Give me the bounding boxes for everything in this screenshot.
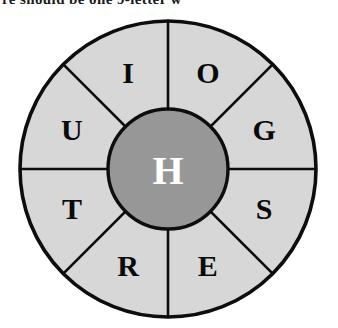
- wheel-letter-t: T: [62, 192, 82, 225]
- clipped-instruction-text: re should be one 9-letter w: [2, 0, 182, 8]
- wheel-letter-s: S: [256, 192, 273, 225]
- word-wheel-figure: O G S E R T U I H: [11, 17, 325, 322]
- word-wheel-svg: O G S E R T U I H: [11, 17, 325, 322]
- wheel-letter-e: E: [198, 249, 218, 282]
- wheel-letter-g: G: [252, 113, 275, 146]
- wheel-letter-o: O: [196, 56, 219, 89]
- clipped-instruction-heading: re should be one 9-letter w: [0, 0, 338, 10]
- wheel-letter-u: U: [61, 113, 83, 146]
- page-canvas: re should be one 9-letter w O G S: [0, 0, 338, 328]
- wheel-letter-i: I: [122, 56, 134, 89]
- wheel-center-letter: H: [152, 148, 183, 193]
- wheel-letter-r: R: [117, 249, 139, 282]
